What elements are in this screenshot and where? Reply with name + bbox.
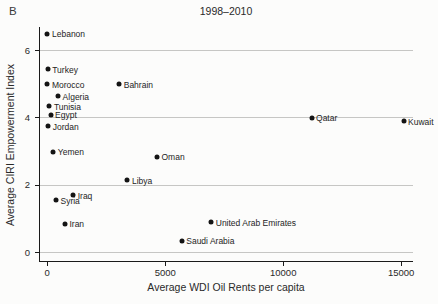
- point-turkey: [45, 67, 50, 72]
- point-label-libya: Libya: [132, 176, 152, 186]
- point-yemen: [51, 149, 56, 154]
- point-label-jordan: Jordan: [53, 122, 79, 132]
- x-tick-label-10000: 10000: [261, 268, 305, 278]
- point-label-lebanon: Lebanon: [52, 29, 85, 39]
- x-tick-15000: [401, 262, 402, 266]
- point-label-iraq: Iraq: [78, 191, 93, 201]
- point-saudi-arabia: [179, 238, 184, 243]
- point-label-egypt: Egypt: [55, 110, 77, 120]
- gridline-y-0: [39, 252, 413, 253]
- point-united-arab-emirates: [209, 220, 214, 225]
- point-label-morocco: Morocco: [52, 80, 85, 90]
- point-label-united-arab-emirates: United Arab Emirates: [216, 218, 296, 228]
- gridline-y-6: [39, 50, 413, 51]
- x-axis-line: [39, 261, 413, 262]
- point-libya: [125, 178, 130, 183]
- point-label-iran: Iran: [69, 219, 84, 229]
- plot-area: 0246050001000015000LebanonTurkeyMoroccoB…: [0, 0, 438, 304]
- point-qatar: [309, 115, 314, 120]
- x-tick-5000: [165, 262, 166, 266]
- point-label-kuwait: Kuwait: [408, 117, 434, 127]
- y-axis-line: [39, 27, 40, 262]
- point-label-oman: Oman: [161, 152, 184, 162]
- x-tick-0: [47, 262, 48, 266]
- x-tick-10000: [283, 262, 284, 266]
- point-syria: [53, 198, 58, 203]
- point-egypt: [48, 112, 53, 117]
- x-tick-label-0: 0: [25, 268, 69, 278]
- point-label-saudi-arabia: Saudi Arabia: [186, 236, 234, 246]
- point-label-bahrain: Bahrain: [124, 80, 153, 90]
- point-iran: [62, 221, 67, 226]
- gridline-y-2: [39, 185, 413, 186]
- point-label-yemen: Yemen: [58, 147, 84, 157]
- y-tick-label-4: 4: [10, 113, 30, 123]
- y-tick-label-2: 2: [10, 180, 30, 190]
- point-algeria: [56, 94, 61, 99]
- point-jordan: [46, 124, 51, 129]
- point-bahrain: [117, 82, 122, 87]
- point-label-turkey: Turkey: [52, 65, 78, 75]
- point-kuwait: [401, 119, 406, 124]
- y-tick-label-0: 0: [10, 248, 30, 258]
- point-tunisia: [47, 104, 52, 109]
- gridline-y-4: [39, 117, 413, 118]
- x-tick-label-15000: 15000: [379, 268, 423, 278]
- point-morocco: [45, 82, 50, 87]
- y-tick-label-6: 6: [10, 46, 30, 56]
- point-iraq: [71, 193, 76, 198]
- point-label-qatar: Qatar: [316, 113, 337, 123]
- point-label-algeria: Algeria: [63, 92, 89, 102]
- scatter-figure: B 1998–2010 Average CIRI Empowerment Ind…: [0, 0, 438, 304]
- point-lebanon: [45, 31, 50, 36]
- point-oman: [154, 154, 159, 159]
- x-tick-label-5000: 5000: [143, 268, 187, 278]
